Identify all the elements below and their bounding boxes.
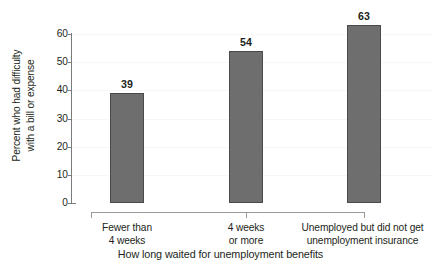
x-category-label-2-line-2: or more <box>196 234 296 247</box>
x-category-label-1: Fewer than 4 weeks <box>77 221 177 247</box>
bar-value-label-3: 63 <box>344 11 384 22</box>
x-category-label-3-line-1: Unemployed but did not get <box>284 221 441 234</box>
y-tickmark-50 <box>68 62 72 63</box>
y-tick-label-30: 30 <box>46 114 68 124</box>
y-tick-label-20: 20 <box>46 142 68 152</box>
bar-chart: Percent who had difficulty with a bill o… <box>0 0 441 269</box>
x-category-label-3: Unemployed but did not get unemployment … <box>284 221 441 247</box>
y-tick-label-60: 60 <box>46 29 68 39</box>
y-tick-label-40: 40 <box>46 85 68 95</box>
y-tick-label-0: 0 <box>46 198 68 208</box>
x-axis-bracket-tick-left <box>91 212 92 218</box>
x-category-label-3-line-2: unemployment insurance <box>284 234 441 247</box>
bar-fewer-than-4-weeks <box>110 93 144 203</box>
x-axis-bracket-tick-middle <box>246 212 247 218</box>
y-tickmark-60 <box>68 34 72 35</box>
y-tickmark-0 <box>68 203 72 204</box>
x-category-label-2: 4 weeks or more <box>196 221 296 247</box>
x-axis-title: How long waited for unemployment benefit… <box>0 248 441 261</box>
x-axis-bracket-tick-right <box>364 212 365 218</box>
bar-value-label-2: 54 <box>226 37 266 48</box>
bar-4-weeks-or-more <box>229 51 263 203</box>
x-axis-bracket <box>91 212 365 213</box>
y-axis-title-line-1: Percent who had difficulty <box>10 49 24 161</box>
x-category-label-2-line-1: 4 weeks <box>196 221 296 234</box>
x-category-label-1-line-2: 4 weeks <box>77 234 177 247</box>
y-tickmark-10 <box>68 175 72 176</box>
y-axis-tick-labels: 60 50 40 30 20 10 0 <box>44 0 68 269</box>
bar-no-unemployment-insurance <box>347 25 381 203</box>
y-axis-title: Percent who had difficulty with a bill o… <box>0 0 46 210</box>
y-tickmark-20 <box>68 147 72 148</box>
x-category-label-1-line-1: Fewer than <box>77 221 177 234</box>
y-tickmark-40 <box>68 90 72 91</box>
y-tick-label-50: 50 <box>46 57 68 67</box>
bar-value-label-1: 39 <box>107 79 147 90</box>
y-axis-title-line-2: with a bill or expense <box>23 49 37 161</box>
y-tickmark-30 <box>68 119 72 120</box>
y-tick-label-10: 10 <box>46 170 68 180</box>
